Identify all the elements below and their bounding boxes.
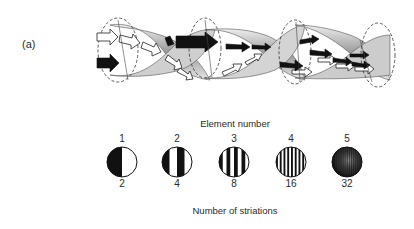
element-5: 5 32 [327,133,367,190]
element-2: 2 4 [157,133,197,190]
striation-disc-icon [331,146,363,178]
striation-disc-icon [106,146,138,178]
striation-count: 16 [271,178,311,190]
striation-disc-icon [161,146,193,178]
number-of-striations-title: Number of striations [150,205,320,216]
twisted-helix-diagram [0,0,414,110]
element-number: 3 [214,133,254,145]
striation-disc-icon [275,146,307,178]
element-number: 2 [157,133,197,145]
striation-count: 8 [214,178,254,190]
element-4: 4 16 [271,133,311,190]
element-1: 1 2 [102,133,142,190]
striation-count: 32 [327,178,367,190]
striation-count: 2 [102,178,142,190]
element-3: 3 8 [214,133,254,190]
element-number-title: Element number [150,118,320,129]
element-number: 1 [102,133,142,145]
element-number: 4 [271,133,311,145]
striation-count: 4 [157,178,197,190]
striation-disc-icon [218,146,250,178]
element-number: 5 [327,133,367,145]
